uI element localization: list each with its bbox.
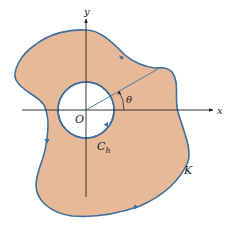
outer-region-k [15,30,189,217]
origin-label: O [75,113,84,126]
outer-curve-label: K [183,164,193,177]
inner-curve-label-sub: h [105,146,110,155]
angle-label: θ [126,94,132,105]
direction-arrow-icon [104,122,109,127]
y-axis-label: y [83,6,90,17]
contour-diagram: y x O θ Ch K [0,0,235,226]
x-axis-label: x [217,105,223,116]
